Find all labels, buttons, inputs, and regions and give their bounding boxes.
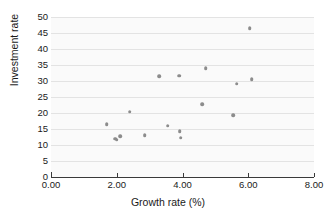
- data-point: [118, 135, 122, 139]
- data-point: [204, 66, 208, 70]
- data-point: [235, 82, 239, 86]
- data-point: [115, 138, 119, 142]
- data-point: [248, 26, 252, 30]
- data-point: [166, 124, 170, 128]
- scatter-plot-figure: 05101520253035404550 0.002.004.006.008.0…: [0, 0, 336, 220]
- y-tick-label: 10: [28, 140, 48, 150]
- gridline-y-5: [51, 161, 314, 162]
- gridline-y-25: [51, 97, 314, 98]
- y-tick-label: 35: [28, 60, 48, 70]
- x-tick-label: 2.00: [97, 180, 137, 190]
- data-point: [200, 102, 204, 106]
- data-point: [105, 122, 109, 126]
- x-tick-mark: [314, 173, 315, 178]
- x-tick-label: 6.00: [228, 180, 268, 190]
- y-tick-label: 30: [28, 76, 48, 86]
- data-point: [177, 74, 181, 78]
- x-tick-mark: [117, 173, 118, 178]
- gridline-y-30: [51, 81, 314, 82]
- y-tick-label: 15: [28, 124, 48, 134]
- y-tick-label: 45: [28, 28, 48, 38]
- y-tick-label: 50: [28, 12, 48, 22]
- gridline-y-50: [51, 17, 314, 18]
- data-point: [179, 136, 183, 140]
- y-tick-label: 20: [28, 108, 48, 118]
- x-tick-mark: [248, 173, 249, 178]
- gridline-y-10: [51, 145, 314, 146]
- data-point: [178, 129, 182, 133]
- x-tick-label: 4.00: [163, 180, 203, 190]
- data-point: [128, 110, 132, 114]
- y-axis-label: Investment rate: [8, 0, 20, 120]
- gridline-y-35: [51, 65, 314, 66]
- x-tick-mark: [183, 173, 184, 178]
- data-point: [232, 113, 236, 117]
- x-tick-label: 0.00: [31, 180, 71, 190]
- gridline-y-20: [51, 113, 314, 114]
- gridline-y-40: [51, 49, 314, 50]
- x-tick-mark: [51, 173, 52, 178]
- y-tick-label: 40: [28, 44, 48, 54]
- plot-area: [51, 17, 314, 177]
- gridline-y-45: [51, 33, 314, 34]
- x-tick-label: 8.00: [294, 180, 334, 190]
- x-axis-label: Growth rate (%): [0, 196, 336, 208]
- data-point: [158, 74, 162, 78]
- data-point: [250, 78, 254, 82]
- gridline-y-15: [51, 129, 314, 130]
- y-tick-label: 25: [28, 92, 48, 102]
- y-tick-label: 5: [28, 156, 48, 166]
- data-point: [143, 134, 147, 138]
